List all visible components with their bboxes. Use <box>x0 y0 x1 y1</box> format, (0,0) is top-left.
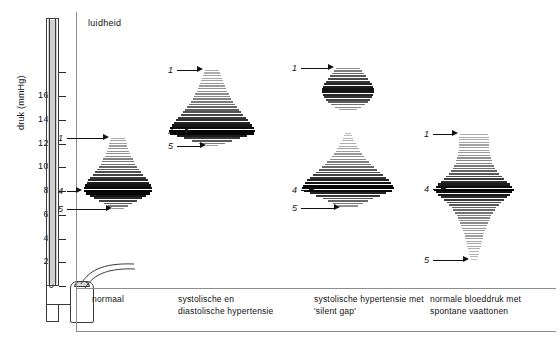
korotkoff-bar <box>339 109 357 110</box>
korotkoff-bar <box>185 109 239 111</box>
korotkoff-bar <box>204 72 221 73</box>
korotkoff-bar <box>187 106 237 108</box>
korotkoff-bar <box>106 153 131 154</box>
korotkoff-diagram: druk (mmHg) 160140120100806040200 luidhe… <box>0 0 560 342</box>
korotkoff-bar <box>183 111 241 113</box>
korotkoff-bar <box>109 145 128 146</box>
korotkoff-bar <box>471 259 477 260</box>
korotkoff-bar <box>461 225 486 226</box>
korotkoff-bar <box>103 158 132 159</box>
korotkoff-bar <box>199 85 225 86</box>
manometer-column-inner <box>49 18 56 286</box>
plot-left-rule <box>76 12 77 332</box>
korotkoff-bar <box>195 93 228 94</box>
y-axis-title: druk (mmHg) <box>16 75 26 130</box>
korotkoff-bar <box>339 146 357 147</box>
korotkoff-bar <box>328 101 368 103</box>
caption-line: normaal <box>92 294 124 306</box>
manometer-base-left <box>46 286 72 305</box>
korotkoff-bar <box>345 133 351 134</box>
phase-marker-5: 5 <box>58 203 112 215</box>
korotkoff-bar <box>344 135 352 136</box>
y-tick-mark <box>59 239 66 240</box>
caption-line: systolische en <box>178 294 274 306</box>
korotkoff-bar <box>343 138 353 139</box>
caption-line: spontane vaattonen <box>430 306 521 318</box>
phase-marker-5: 5 <box>168 140 206 152</box>
y-tick-mark <box>59 96 66 97</box>
korotkoff-bar <box>458 217 490 218</box>
phase-marker-5: 5 <box>424 254 469 266</box>
phase-marker-shaft <box>301 190 309 191</box>
korotkoff-bar <box>189 104 235 106</box>
korotkoff-bar <box>334 70 362 71</box>
korotkoff-bar <box>332 156 364 157</box>
phase-marker-shaft <box>433 134 452 135</box>
korotkoff-bar <box>95 171 141 173</box>
korotkoff-bar <box>338 205 358 206</box>
phase-marker-shaft <box>67 138 103 139</box>
phase-marker-arrowhead-icon <box>334 204 340 210</box>
korotkoff-bar <box>457 157 490 158</box>
loudness-axis-label: luidheid <box>88 18 121 28</box>
phase-marker-arrowhead-icon <box>200 142 206 148</box>
phase-marker-label: 5 <box>424 254 429 266</box>
phase-marker-label: 4 <box>168 126 173 138</box>
korotkoff-bar <box>112 208 124 209</box>
phase-marker-shaft <box>177 146 200 147</box>
korotkoff-bar <box>194 96 230 97</box>
korotkoff-bar <box>455 212 493 214</box>
phase-marker-shaft <box>177 132 185 133</box>
phase-marker-label: 4 <box>58 185 63 197</box>
korotkoff-bar <box>328 78 368 80</box>
korotkoff-bar <box>457 215 492 216</box>
phase-marker-arrowhead-icon <box>463 256 469 262</box>
korotkoff-bar <box>453 209 494 211</box>
korotkoff-bar <box>449 173 500 175</box>
korotkoff-bar <box>202 78 222 79</box>
korotkoff-bar <box>464 233 484 234</box>
korotkoff-bar <box>449 204 498 206</box>
korotkoff-bar <box>111 138 125 139</box>
caption-line: 'silent gap' <box>314 306 424 318</box>
caption-line: systolische hypertensie met <box>314 294 424 306</box>
y-tick-mark <box>59 262 66 263</box>
korotkoff-bar <box>102 161 134 162</box>
caption-systolische-en-diastolische-hypertensie: systolische endiastolische hypertensie <box>178 294 274 317</box>
korotkoff-bar <box>99 166 137 168</box>
phase-marker-label: 4 <box>292 184 297 196</box>
korotkoff-bar <box>452 207 497 209</box>
korotkoff-bar <box>193 98 232 99</box>
korotkoff-bar <box>459 139 488 140</box>
korotkoff-bar <box>110 140 125 141</box>
phase-marker-shaft <box>67 209 106 210</box>
korotkoff-bar <box>97 169 139 171</box>
phase-marker-1: 1 <box>424 128 458 140</box>
korotkoff-bar <box>469 254 478 255</box>
phase-marker-arrowhead-icon <box>185 128 191 134</box>
korotkoff-bar <box>327 161 368 162</box>
korotkoff-bar <box>454 165 494 166</box>
caption-line: normale bloeddruk met <box>430 294 521 306</box>
korotkoff-bar <box>466 241 482 242</box>
phase-marker-arrowhead-icon <box>441 185 447 191</box>
korotkoff-bar <box>335 107 361 108</box>
phase-marker-arrowhead-icon <box>452 130 458 136</box>
y-tick-mark <box>59 72 66 73</box>
plot-baseline <box>76 288 556 289</box>
korotkoff-bar <box>459 142 489 143</box>
korotkoff-bar <box>198 88 226 89</box>
korotkoff-bar <box>456 160 491 161</box>
korotkoff-bar <box>463 230 485 231</box>
korotkoff-bar <box>460 222 488 223</box>
korotkoff-bar <box>458 155 490 156</box>
korotkoff-bar <box>459 220 489 221</box>
phase-marker-1: 1 <box>168 64 203 76</box>
korotkoff-bar <box>462 228 485 229</box>
korotkoff-bar <box>459 150 490 151</box>
phase-marker-shaft <box>177 70 197 71</box>
korotkoff-bar <box>93 174 143 176</box>
phase-marker-shaft <box>433 189 441 190</box>
korotkoff-bar <box>205 70 220 71</box>
phase-marker-arrowhead-icon <box>328 64 334 70</box>
